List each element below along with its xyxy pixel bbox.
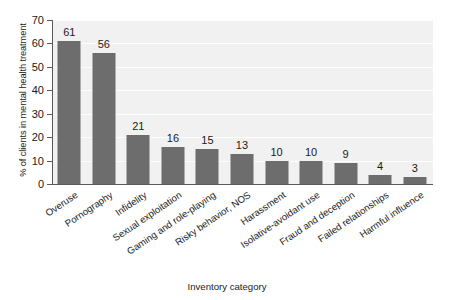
y-tick-label: 60 — [0, 37, 44, 49]
bar-value-label: 21 — [132, 120, 144, 132]
y-tick-label: 30 — [0, 108, 44, 120]
bar-value-label: 16 — [167, 132, 179, 144]
bar-chart-figure: % of clients in mental health treatment … — [0, 0, 454, 300]
bar-slot: 56 — [87, 20, 122, 184]
x-axis-tick-labels: OverusePornographyInfidelitySexual explo… — [52, 186, 432, 276]
bar-slot: 61 — [52, 20, 87, 184]
bar[interactable] — [92, 53, 115, 184]
y-tick-label: 20 — [0, 131, 44, 143]
bar-value-label: 56 — [98, 38, 110, 50]
bar-value-label: 9 — [343, 148, 349, 160]
bar-value-label: 15 — [201, 134, 213, 146]
bar-value-label: 61 — [63, 26, 75, 38]
bar-slot: 16 — [156, 20, 191, 184]
y-tick-label: 0 — [0, 178, 44, 190]
y-tick-label: 10 — [0, 155, 44, 167]
x-axis-title: Inventory category — [0, 281, 454, 292]
y-tick-label: 70 — [0, 14, 44, 26]
y-tick-label: 50 — [0, 61, 44, 73]
y-tick-label: 40 — [0, 84, 44, 96]
bar[interactable] — [58, 41, 81, 184]
